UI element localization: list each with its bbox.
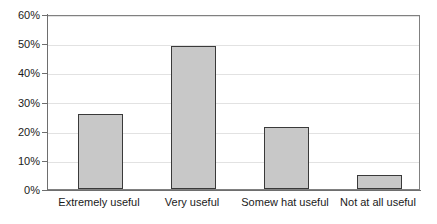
bars-layer	[48, 16, 419, 189]
y-tick-mark-0	[42, 190, 47, 191]
x-tick-label-extremely-useful: Extremely useful	[46, 196, 152, 209]
bar-extremely-useful	[78, 114, 123, 189]
y-tick-mark-30	[42, 103, 47, 104]
y-tick-mark-40	[42, 73, 47, 74]
y-tick-mark-60	[42, 15, 47, 16]
bar-very-useful	[171, 46, 216, 189]
y-tick-mark-20	[42, 132, 47, 133]
x-tick-label-somewhat-useful: Somew hat useful	[232, 196, 338, 209]
bar-somewhat-useful	[264, 127, 309, 189]
x-tick-label-very-useful: Very useful	[139, 196, 245, 209]
y-axis-line	[47, 14, 48, 191]
y-tick-label-60: 60%	[0, 10, 40, 21]
y-tick-label-0: 0%	[0, 185, 40, 196]
x-axis-line	[47, 190, 421, 191]
y-tick-mark-50	[42, 44, 47, 45]
y-tick-label-30: 30%	[0, 98, 40, 109]
y-tick-mark-10	[42, 161, 47, 162]
y-tick-label-40: 40%	[0, 68, 40, 79]
bar-chart-figure: 60% 50% 40% 30% 20% 10% 0% Extremely use…	[0, 0, 437, 224]
x-tick-label-not-at-all-useful: Not at all useful	[325, 196, 431, 209]
y-tick-label-50: 50%	[0, 39, 40, 50]
bar-not-at-all-useful	[357, 175, 402, 189]
plot-area	[47, 15, 420, 190]
y-tick-label-10: 10%	[0, 156, 40, 167]
y-tick-label-20: 20%	[0, 127, 40, 138]
